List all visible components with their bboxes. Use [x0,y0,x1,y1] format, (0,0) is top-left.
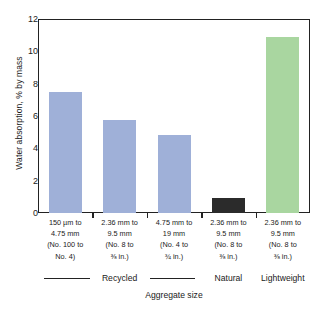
group-label: Lightweight [259,272,307,284]
bar [158,135,191,213]
x-axis-title: Aggregate size [38,290,310,300]
y-tick-label: 12 [8,15,38,24]
y-tick-label: 0 [8,209,38,218]
bar [103,120,136,213]
bars-layer [38,19,310,213]
x-tick-label: 150 µm to4.75 mm(No. 100 toNo. 4) [38,217,92,262]
group-label: Natural [204,272,252,284]
bar [49,92,82,213]
x-tick-label: 4.75 mm to19 mm(No. 4 to¾ in.) [147,217,201,262]
bar [266,37,299,213]
y-tick-label: 2 [8,176,38,185]
x-axis-tick-labels: 150 µm to4.75 mm(No. 100 toNo. 4)2.36 mm… [38,217,310,267]
group-label-row: RecycledNaturalLightweight [38,272,310,286]
x-tick-label: 2.36 mm to9.5 mm(No. 8 to⅜ in.) [92,217,146,262]
x-tick-label: 2.36 mm to9.5 mm(No. 8 to⅜ in.) [201,217,255,262]
y-tick-label: 6 [8,112,38,121]
x-tick-label: 2.36 mm to9.5 mm(No. 8 to⅜ in.) [256,217,310,262]
group-rule [44,278,90,279]
group-label: Recycled [96,272,144,284]
water-absorption-bar-chart: Water absorption, % by mass 024681012 15… [0,0,318,309]
y-tick-label: 8 [8,79,38,88]
group-rule [150,278,196,279]
y-tick-label: 4 [8,144,38,153]
bar [212,198,245,213]
y-tick-label: 10 [8,47,38,56]
